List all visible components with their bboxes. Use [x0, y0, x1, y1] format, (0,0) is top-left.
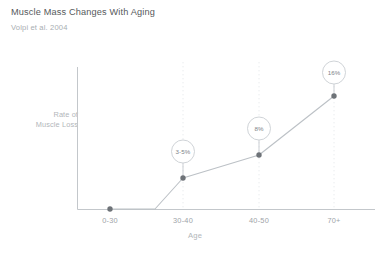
x-tick-30-40: 30-40: [173, 216, 193, 225]
data-point-70-plus[interactable]: [331, 93, 336, 98]
annotation-bubble-70-plus[interactable]: 16%: [323, 61, 346, 84]
chart-container: Muscle Mass Changes With Aging Volpi et …: [0, 0, 390, 256]
data-point-30-40[interactable]: [180, 175, 185, 180]
x-tick-40-50: 40-50: [249, 216, 269, 225]
bubble-label-70-plus: 16%: [328, 69, 341, 76]
x-tick-0-30: 0-30: [102, 216, 118, 225]
annotation-bubble-30-40[interactable]: 3-5%: [172, 140, 195, 163]
data-point-40-50[interactable]: [256, 152, 261, 157]
x-axis-title: Age: [0, 231, 390, 240]
bubble-label-30-40: 3-5%: [176, 148, 191, 155]
data-point-0-30[interactable]: [107, 206, 112, 211]
data-markers: [107, 93, 336, 211]
data-line: [110, 96, 334, 209]
x-tick-70-plus: 70+: [327, 216, 340, 225]
annotation-bubble-40-50[interactable]: 8%: [248, 117, 271, 140]
bubble-label-40-50: 8%: [254, 125, 264, 132]
